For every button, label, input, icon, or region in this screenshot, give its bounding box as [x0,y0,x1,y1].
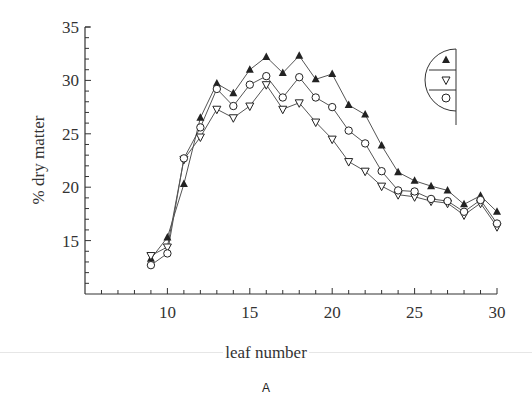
series-line [151,85,497,256]
open-circle-marker [477,196,484,203]
filled-triangle-marker [442,56,450,64]
open-inverted-triangle-marker [246,103,254,111]
series-open-triangle-down [151,85,497,256]
open-circle-marker [442,94,450,102]
line-chart: 15202530351015202530 % dry matter [0,0,532,340]
open-inverted-triangle-marker [442,77,450,85]
open-circle-marker [361,140,368,147]
open-circle-marker [378,167,385,174]
filled-triangle-marker [460,200,468,208]
open-inverted-triangle-marker [378,183,386,191]
filled-triangle-marker [394,168,402,176]
filled-triangle-marker [180,179,188,187]
y-axis-label: % dry matter [29,115,48,204]
panel-label: A [0,381,532,395]
open-inverted-triangle-marker [361,168,369,176]
filled-triangle-marker [246,65,254,73]
series-filled-triangle-up [151,56,497,259]
open-circle-marker [411,188,418,195]
filled-triangle-marker [328,69,336,77]
y-tick-label: 25 [62,125,79,144]
open-circle-marker [493,220,500,227]
x-axis-label: leaf number [0,343,532,363]
x-axis-label-text: leaf number [223,343,309,362]
filled-triangle-marker [196,113,204,121]
y-tick-label: 35 [62,18,79,37]
open-circle-marker [427,195,434,202]
open-circle-marker [213,85,220,92]
series-markers-open-triangle-down [147,82,501,260]
open-circle-marker [197,124,204,131]
open-circle-marker [180,155,187,162]
axes: 15202530351015202530 [62,18,506,322]
legend-arc [425,49,456,111]
series-open-circle [151,76,497,265]
open-circle-marker [296,73,303,80]
open-inverted-triangle-marker [345,159,353,167]
open-circle-marker [147,261,154,268]
open-inverted-triangle-marker [229,115,237,123]
open-circle-marker [246,81,253,88]
series-line [151,56,497,259]
data-series [147,51,501,269]
open-circle-marker [279,94,286,101]
x-tick-label: 25 [406,303,423,322]
y-tick-label: 30 [62,71,79,90]
filled-triangle-marker [361,110,369,118]
filled-triangle-marker [345,100,353,108]
open-circle-marker [394,187,401,194]
open-circle-marker [312,94,319,101]
open-circle-marker [164,250,171,257]
x-tick-label: 15 [241,303,258,322]
series-markers-filled-triangle-up [147,51,501,261]
x-tick-label: 10 [159,303,176,322]
open-circle-marker [460,208,467,215]
x-tick-label: 30 [489,303,506,322]
series-line [151,76,497,265]
open-circle-marker [345,127,352,134]
y-tick-label: 20 [62,178,79,197]
filled-triangle-marker [378,141,386,149]
open-inverted-triangle-marker [213,106,221,114]
open-circle-marker [230,102,237,109]
open-inverted-triangle-marker [147,253,155,261]
filled-triangle-marker [411,176,419,184]
legend [425,49,456,125]
open-circle-marker [329,103,336,110]
open-inverted-triangle-marker [279,106,287,114]
open-circle-marker [263,72,270,79]
filled-triangle-marker [295,51,303,59]
y-tick-label: 15 [62,232,79,251]
filled-triangle-marker [262,52,270,60]
open-circle-marker [444,197,451,204]
x-tick-label: 20 [324,303,341,322]
